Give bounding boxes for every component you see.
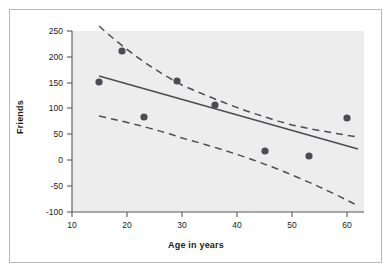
x-tick-label: 20	[114, 220, 140, 230]
plot-area-background	[72, 31, 364, 212]
y-tick-label: -50	[29, 181, 63, 191]
x-tick-label: 10	[59, 220, 85, 230]
y-axis	[67, 31, 72, 212]
x-tick-label: 50	[279, 220, 305, 230]
data-point	[261, 147, 268, 154]
y-tick-label: 200	[29, 52, 63, 62]
x-tick-label: 30	[169, 220, 195, 230]
y-tick-label: 50	[29, 129, 63, 139]
y-tick-label: -100	[29, 207, 63, 217]
data-point	[140, 113, 147, 120]
y-tick-label: 150	[29, 78, 63, 88]
y-axis-title: Friends	[15, 77, 25, 157]
x-axis-title: Age in years	[0, 240, 392, 250]
y-tick-label: 250	[29, 26, 63, 36]
data-point	[95, 78, 102, 85]
x-tick-label: 60	[334, 220, 360, 230]
y-tick-label: 0	[29, 155, 63, 165]
x-tick-label: 40	[224, 220, 250, 230]
data-point	[211, 101, 218, 108]
x-axis	[72, 212, 364, 217]
data-point	[173, 77, 180, 84]
data-point	[343, 114, 350, 121]
y-tick-label: 100	[29, 103, 63, 113]
data-point	[305, 152, 312, 159]
data-point	[118, 47, 125, 54]
